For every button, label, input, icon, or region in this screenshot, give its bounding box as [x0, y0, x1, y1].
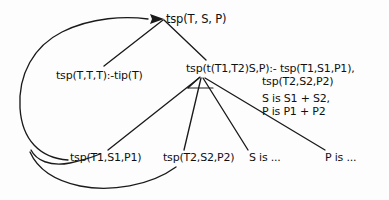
- node-goal-t1: tsp(T1,S1,P1): [70, 152, 141, 164]
- node-base-clause: tsp(T,T,T):-tip(T): [56, 70, 143, 82]
- edge-recursive-to-goal-t2: [184, 78, 201, 150]
- diagram-canvas: [0, 0, 389, 200]
- node-recursive-clause-head: tsp(t(T1,T2)S,P):- tsp(T1,S1,P1),: [186, 63, 355, 75]
- node-goal-s: S is ...: [249, 152, 281, 164]
- edge-root-to-base-clause: [104, 20, 163, 66]
- edge-goal-t1-backedge: [20, 18, 148, 160]
- edge-recursive-to-goal-t1: [108, 78, 199, 150]
- edge-root-to-recursive-clause: [164, 20, 206, 60]
- node-recursive-clause-sum-p: P is P1 + P2: [262, 106, 326, 118]
- node-root-goal: tsp(T, S, P): [166, 13, 226, 25]
- edge-recursive-to-goal-s: [203, 78, 248, 150]
- node-goal-p: P is ...: [325, 152, 356, 164]
- edge-recursive-apex-left-leg: [188, 77, 200, 88]
- node-goal-t2: tsp(T2,S2,P2): [163, 152, 234, 164]
- node-recursive-clause-sum-s: S is S1 + S2,: [262, 93, 330, 105]
- arrowhead-into-root: [150, 14, 164, 24]
- proof-tree-diagram: tsp(T, S, P) tsp(T,T,T):-tip(T) tsp(t(T1…: [0, 0, 389, 200]
- node-recursive-clause-body2: tsp(T2,S2,P2): [262, 76, 333, 88]
